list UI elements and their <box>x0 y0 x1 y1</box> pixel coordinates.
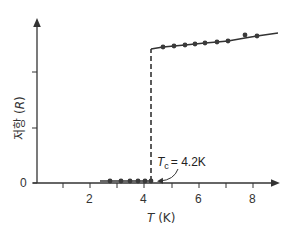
tc-annotation: Tc= 4.2K <box>157 155 206 171</box>
y-axis-title: 저항 (R) <box>13 96 27 140</box>
x-tick-label-4: 4 <box>140 192 147 206</box>
x-tick-label-2: 2 <box>86 192 93 206</box>
y-ticks <box>32 72 37 183</box>
x-axis-title: T (K) <box>147 211 175 225</box>
above-tc-points <box>161 33 260 50</box>
y-tick-label-0: 0 <box>20 176 27 190</box>
tc-annotation-arrow <box>160 169 178 181</box>
x-tick-label-8: 8 <box>249 192 256 206</box>
x-ticks <box>63 183 253 188</box>
superconductor-resistance-chart: 0 2 4 6 8 T (K) 저항 (R) <box>0 0 299 233</box>
x-tick-label-6: 6 <box>195 192 202 206</box>
